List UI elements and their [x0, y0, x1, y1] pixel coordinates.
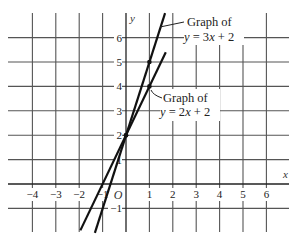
x-tick-label: −4: [27, 188, 39, 200]
tick-labels: −4−3−2−1123456O−1123456: [25, 31, 270, 215]
data-point: [147, 60, 152, 65]
x-tick-label: 2: [170, 188, 176, 200]
y-tick-label: −1: [110, 202, 122, 214]
annotation-leader-line: [160, 22, 184, 27]
y-tick-label: 5: [117, 56, 123, 68]
annotation-label-line1: Graph of: [187, 15, 233, 29]
annotation-equation-3x: y = 3x + 2: [182, 30, 234, 44]
x-axis-label: x: [282, 168, 288, 180]
x-tick-label: −2: [73, 188, 85, 200]
x-tick-label: 5: [240, 188, 246, 200]
series-line-1: [95, 13, 165, 233]
x-tick-label: 4: [217, 188, 223, 200]
origin-label: O: [114, 188, 123, 202]
data-point: [147, 84, 152, 89]
x-tick-label: −3: [50, 188, 62, 200]
x-tick-label: 1: [147, 188, 153, 200]
y-tick-label: 2: [117, 129, 123, 141]
coordinate-plane-chart: xy −4−3−2−1123456O−1123456 Graph ofy = 3…: [0, 0, 297, 242]
y-tick-label: 4: [117, 80, 123, 92]
x-tick-label: 3: [193, 188, 199, 200]
series-line-2: [80, 52, 165, 230]
annotations: Graph ofy = 3x + 2Graph ofy = 2x + 2: [151, 13, 244, 121]
y-axis-label: y: [129, 12, 135, 24]
y-tick-label: 3: [117, 105, 123, 117]
annotation-equation-2x: y = 2x + 2: [158, 105, 210, 119]
annotation-label-line1: Graph of: [163, 91, 209, 105]
x-tick-label: 6: [264, 188, 270, 200]
data-point: [124, 133, 129, 138]
y-tick-label: 6: [117, 32, 123, 44]
